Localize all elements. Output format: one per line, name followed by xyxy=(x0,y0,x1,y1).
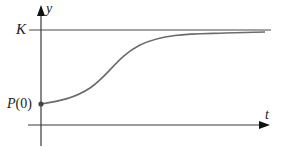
logistic-chart: K y t P(0) xyxy=(0,0,283,148)
label-y-axis: y xyxy=(46,2,52,16)
y-axis-arrow-icon xyxy=(37,5,45,16)
label-p0-prefix: P xyxy=(7,96,16,111)
label-k: K xyxy=(16,22,26,37)
label-t-axis: t xyxy=(265,108,269,122)
logistic-curve xyxy=(41,32,265,104)
chart-canvas xyxy=(0,0,283,148)
label-p0-suffix: (0) xyxy=(16,96,32,111)
label-p0: P(0) xyxy=(7,97,32,111)
x-axis-arrow-icon xyxy=(259,121,270,129)
initial-point-marker xyxy=(38,101,43,106)
